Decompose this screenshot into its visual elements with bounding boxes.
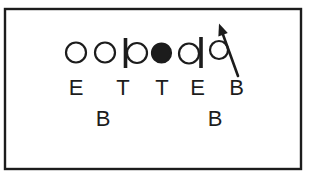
front-label-4-E: E	[190, 75, 205, 100]
front-label-2-T: T	[116, 75, 129, 100]
front-label-1-E: E	[69, 75, 84, 100]
center-marker	[152, 44, 171, 63]
lineman-5-marker	[179, 44, 199, 64]
play-diagram-canvas: ETTEBBB	[0, 0, 312, 178]
motion-arrow-head-icon	[218, 24, 227, 37]
lineman-1-marker	[66, 43, 86, 63]
linebacker-label-2-B: B	[208, 106, 223, 131]
lineman-2-marker	[95, 43, 115, 63]
linebacker-label-1-B: B	[96, 106, 111, 131]
front-label-5-B: B	[229, 75, 244, 100]
front-label-3-T: T	[155, 75, 168, 100]
lineman-3-marker	[127, 43, 147, 63]
diagram-frame	[5, 9, 301, 169]
play-diagram: ETTEBBB	[0, 0, 312, 178]
